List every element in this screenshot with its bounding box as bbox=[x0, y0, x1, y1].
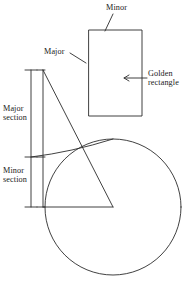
label-golden-rectangle-line2: rectangle bbox=[148, 78, 179, 87]
label-major: Major bbox=[44, 47, 65, 56]
label-minor-section: Minor section bbox=[3, 166, 27, 185]
label-golden-rectangle-line1: Golden bbox=[148, 69, 179, 78]
label-major-text: Major bbox=[44, 47, 65, 56]
label-major-section-line2: section bbox=[3, 113, 27, 122]
figure-canvas bbox=[0, 0, 187, 289]
label-minor-top: Minor bbox=[106, 3, 127, 12]
label-minor-top-text: Minor bbox=[106, 3, 127, 12]
label-golden-rectangle: Golden rectangle bbox=[148, 69, 179, 88]
label-minor-section-line2: section bbox=[3, 175, 27, 184]
label-major-section-line1: Major bbox=[3, 104, 27, 113]
triangle-hypotenuse bbox=[43, 70, 113, 207]
major-leader-line bbox=[70, 53, 86, 63]
minor-top-leader-line bbox=[105, 14, 113, 31]
label-minor-section-line1: Minor bbox=[3, 166, 27, 175]
label-major-section: Major section bbox=[3, 104, 27, 123]
golden-section-figure: Minor Major Golden rectangle Major secti… bbox=[0, 0, 187, 289]
golden-rectangle-shape bbox=[89, 30, 142, 116]
